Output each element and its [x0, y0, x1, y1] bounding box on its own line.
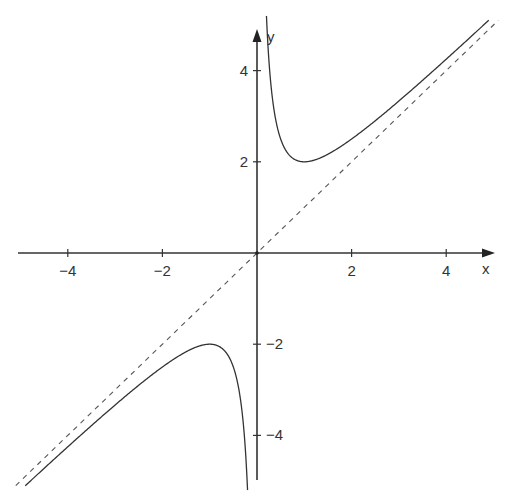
x-tick-label: −4 — [59, 262, 76, 279]
x-axis-label: x — [482, 260, 490, 277]
origin-dot — [255, 251, 259, 255]
y-axis-arrow-icon — [253, 29, 262, 42]
y-axis-label: y — [267, 28, 275, 45]
x-tick-label: −2 — [154, 262, 171, 279]
y-tick-label: −2 — [266, 335, 283, 352]
function-curve — [25, 344, 247, 490]
function-curve — [266, 16, 488, 162]
x-tick-label: 2 — [347, 262, 355, 279]
y-tick-label: −4 — [266, 426, 283, 443]
x-tick-label: 4 — [442, 262, 450, 279]
y-tick-label: 4 — [240, 62, 248, 79]
x-axis-arrow-icon — [482, 249, 495, 258]
function-plot: −4−224 42−2−4 x y — [0, 0, 519, 492]
y-tick-label: 2 — [240, 153, 248, 170]
